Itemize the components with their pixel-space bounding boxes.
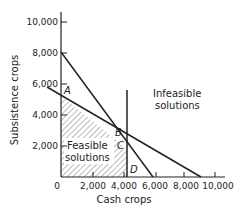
x-tick-10000: 10,000 [202, 181, 234, 191]
y-tick-10000: 10,000 [27, 17, 59, 27]
y-tick-2000: 2,000 [32, 141, 58, 151]
y-axis-label: Subsistence crops [9, 55, 20, 146]
x-tick-8000: 8,000 [173, 181, 199, 191]
feasible-label-line1: Feasible [67, 140, 108, 151]
x-tick-4000: 4,000 [111, 181, 137, 191]
x-tick-6000: 6,000 [142, 181, 168, 191]
y-tick-6000: 6,000 [32, 79, 58, 89]
point-b-label: B [115, 127, 122, 138]
point-d-label: D [130, 164, 138, 175]
infeasible-label-line1: Infeasible [153, 88, 201, 99]
lp-chart: 10,000 8,000 6,000 4,000 2,000 0 2,000 4… [0, 0, 247, 208]
x-axis-label: Cash crops [97, 194, 152, 205]
x-tick-0: 0 [54, 181, 60, 191]
infeasible-label-line2: solutions [155, 100, 200, 111]
point-a-label: A [63, 85, 71, 96]
x-tick-2000: 2,000 [80, 181, 106, 191]
feasible-label-line2: solutions [65, 152, 110, 163]
point-c-label: C [117, 140, 124, 151]
y-tick-4000: 4,000 [32, 110, 58, 120]
y-tick-8000: 8,000 [32, 48, 58, 58]
